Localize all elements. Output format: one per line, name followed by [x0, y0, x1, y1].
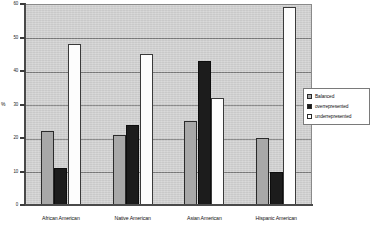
x-axis-category-label: African American — [42, 215, 80, 221]
legend-swatch-icon — [307, 104, 312, 109]
y-axis-tick-label: 50 — [4, 34, 18, 40]
gridline — [26, 139, 311, 140]
legend-item-label: overrepresented — [315, 104, 348, 110]
y-axis-tick — [20, 104, 25, 106]
legend-item-label: underrepresented — [315, 114, 351, 120]
y-axis-title: % — [1, 101, 5, 107]
gridline — [26, 72, 311, 73]
y-axis-tick — [20, 171, 25, 173]
gridline — [26, 38, 311, 39]
y-axis-tick-label: 0 — [4, 202, 18, 208]
plot-area — [25, 4, 312, 205]
legend-item[interactable]: underrepresented — [307, 112, 367, 121]
y-axis-tick — [20, 204, 25, 206]
legend: Balancedoverrepresentedunderrepresented — [303, 88, 370, 125]
y-axis-tick — [20, 3, 25, 5]
bar-chart: 0102030405060 % African AmericanNative A… — [0, 0, 373, 232]
legend-item[interactable]: overrepresented — [307, 102, 367, 111]
y-axis-tick — [20, 70, 25, 72]
y-axis-tick-label: 40 — [4, 68, 18, 74]
x-axis-category-label: Hispanic American — [255, 215, 296, 221]
x-axis-line — [24, 204, 313, 206]
legend-item-label: Balanced — [315, 94, 334, 100]
gridline — [26, 172, 311, 173]
y-axis-tick — [20, 37, 25, 39]
y-axis-tick-label: 30 — [4, 101, 18, 107]
x-axis-category-label: Native American — [114, 215, 150, 221]
y-axis-tick-label: 60 — [4, 1, 18, 7]
legend-item[interactable]: Balanced — [307, 92, 367, 101]
legend-swatch-icon — [307, 114, 312, 119]
x-axis-category-labels: African AmericanNative AmericanAsian Ame… — [25, 215, 312, 227]
y-axis-tick-label: 10 — [4, 168, 18, 174]
gridline — [26, 105, 311, 106]
y-axis-tick-label: 20 — [4, 135, 18, 141]
legend-swatch-icon — [307, 94, 312, 99]
y-axis-tick — [20, 137, 25, 139]
x-axis-category-label: Asian American — [187, 215, 222, 221]
